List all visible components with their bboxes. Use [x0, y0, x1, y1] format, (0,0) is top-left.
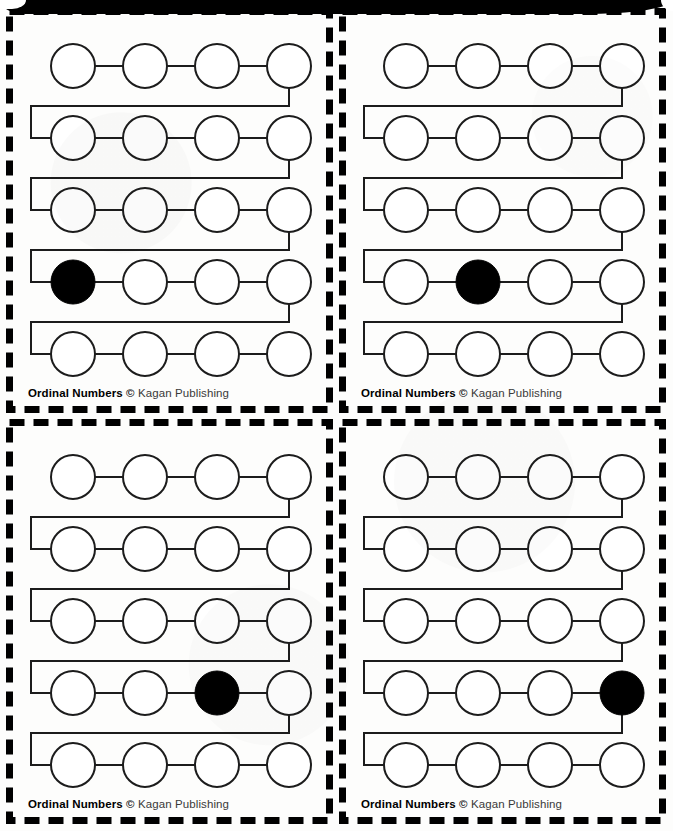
- circle-node-filled[interactable]: [600, 671, 644, 715]
- circle-node-empty[interactable]: [195, 44, 239, 88]
- circle-node-filled[interactable]: [456, 260, 500, 304]
- circle-node-empty[interactable]: [123, 527, 167, 571]
- circle-node-empty[interactable]: [600, 743, 644, 787]
- circle-node-empty[interactable]: [384, 116, 428, 160]
- circle-node-empty[interactable]: [123, 743, 167, 787]
- chain-svg: [6, 8, 333, 390]
- circle-node-empty[interactable]: [600, 332, 644, 376]
- circle-node-empty[interactable]: [384, 527, 428, 571]
- card-grid: Ordinal Numbers © Kagan Publishing Ordin…: [0, 0, 673, 831]
- circle-node-empty[interactable]: [384, 671, 428, 715]
- circle-node-empty[interactable]: [267, 455, 311, 499]
- footer-publisher: Kagan Publishing: [135, 387, 229, 399]
- circle-node-empty[interactable]: [600, 260, 644, 304]
- circle-node-empty[interactable]: [51, 332, 95, 376]
- circle-node-empty[interactable]: [267, 188, 311, 232]
- circle-node-empty[interactable]: [51, 743, 95, 787]
- circle-node-empty[interactable]: [600, 599, 644, 643]
- circle-node-empty[interactable]: [195, 527, 239, 571]
- circle-node-empty[interactable]: [528, 332, 572, 376]
- circle-node-empty[interactable]: [123, 260, 167, 304]
- circle-node-empty[interactable]: [195, 116, 239, 160]
- circle-node-empty[interactable]: [384, 599, 428, 643]
- circle-node-empty[interactable]: [528, 743, 572, 787]
- circle-node-empty[interactable]: [51, 188, 95, 232]
- circle-node-empty[interactable]: [456, 44, 500, 88]
- circle-node-empty[interactable]: [195, 743, 239, 787]
- circle-node-empty[interactable]: [528, 44, 572, 88]
- circle-node-empty[interactable]: [123, 332, 167, 376]
- circle-node-empty[interactable]: [267, 599, 311, 643]
- circle-node-empty[interactable]: [51, 116, 95, 160]
- chain-svg: [6, 419, 333, 801]
- circle-node-empty[interactable]: [123, 116, 167, 160]
- circle-node-empty[interactable]: [456, 116, 500, 160]
- circle-node-empty[interactable]: [528, 527, 572, 571]
- circle-node-empty[interactable]: [123, 44, 167, 88]
- footer-title: Ordinal Numbers: [361, 387, 456, 399]
- circle-node-empty[interactable]: [384, 188, 428, 232]
- circle-node-empty[interactable]: [456, 743, 500, 787]
- circle-node-empty[interactable]: [600, 44, 644, 88]
- circle-node-empty[interactable]: [600, 527, 644, 571]
- circle-chain-top-left: [6, 8, 333, 390]
- circle-node-empty[interactable]: [528, 599, 572, 643]
- circle-node-empty[interactable]: [456, 527, 500, 571]
- circle-node-empty[interactable]: [528, 671, 572, 715]
- footer-title: Ordinal Numbers: [28, 798, 123, 810]
- circle-node-empty[interactable]: [195, 260, 239, 304]
- circle-node-empty[interactable]: [528, 455, 572, 499]
- circle-node-empty[interactable]: [528, 260, 572, 304]
- circle-node-empty[interactable]: [600, 116, 644, 160]
- circle-node-filled[interactable]: [51, 260, 95, 304]
- circle-node-empty[interactable]: [384, 455, 428, 499]
- circle-node-empty[interactable]: [267, 527, 311, 571]
- circle-chain-top-right: [339, 8, 666, 390]
- circle-node-empty[interactable]: [456, 455, 500, 499]
- circle-node-empty[interactable]: [195, 599, 239, 643]
- circle-node-empty[interactable]: [267, 116, 311, 160]
- circle-node-filled[interactable]: [195, 671, 239, 715]
- circle-node-empty[interactable]: [51, 455, 95, 499]
- worksheet-card-top-left[interactable]: Ordinal Numbers © Kagan Publishing: [6, 8, 333, 413]
- circle-node-empty[interactable]: [267, 332, 311, 376]
- worksheet-card-top-right[interactable]: Ordinal Numbers © Kagan Publishing: [339, 8, 666, 413]
- worksheet-card-bottom-right[interactable]: Ordinal Numbers © Kagan Publishing: [339, 419, 666, 824]
- circle-node-empty[interactable]: [51, 671, 95, 715]
- copyright-icon: ©: [126, 798, 135, 810]
- circle-node-empty[interactable]: [51, 44, 95, 88]
- copyright-icon: ©: [459, 387, 468, 399]
- circle-node-empty[interactable]: [456, 599, 500, 643]
- circle-node-empty[interactable]: [195, 332, 239, 376]
- circle-node-empty[interactable]: [195, 188, 239, 232]
- circle-node-empty[interactable]: [384, 44, 428, 88]
- worksheet-page: Ordinal Numbers © Kagan Publishing Ordin…: [0, 0, 673, 831]
- circle-node-empty[interactable]: [267, 44, 311, 88]
- circle-node-empty[interactable]: [384, 743, 428, 787]
- circle-node-empty[interactable]: [123, 671, 167, 715]
- circle-node-empty[interactable]: [528, 116, 572, 160]
- circle-node-empty[interactable]: [51, 527, 95, 571]
- copyright-icon: ©: [126, 387, 135, 399]
- card-footer-bottom-left: Ordinal Numbers © Kagan Publishing: [28, 798, 229, 811]
- circle-node-empty[interactable]: [600, 455, 644, 499]
- card-footer-bottom-right: Ordinal Numbers © Kagan Publishing: [361, 798, 562, 811]
- circle-node-empty[interactable]: [123, 455, 167, 499]
- circle-node-empty[interactable]: [267, 671, 311, 715]
- circle-node-empty[interactable]: [51, 599, 95, 643]
- footer-publisher: Kagan Publishing: [468, 387, 562, 399]
- circle-node-empty[interactable]: [456, 188, 500, 232]
- circle-node-empty[interactable]: [384, 260, 428, 304]
- circle-node-empty[interactable]: [123, 188, 167, 232]
- circle-node-empty[interactable]: [600, 188, 644, 232]
- circle-node-empty[interactable]: [456, 671, 500, 715]
- circle-node-empty[interactable]: [123, 599, 167, 643]
- circle-node-empty[interactable]: [195, 455, 239, 499]
- circle-node-empty[interactable]: [267, 260, 311, 304]
- circle-node-empty[interactable]: [528, 188, 572, 232]
- circle-node-empty[interactable]: [456, 332, 500, 376]
- worksheet-card-bottom-left[interactable]: Ordinal Numbers © Kagan Publishing: [6, 419, 333, 824]
- circle-node-empty[interactable]: [384, 332, 428, 376]
- scan-edge-artifact: [0, 0, 673, 14]
- circle-node-empty[interactable]: [267, 743, 311, 787]
